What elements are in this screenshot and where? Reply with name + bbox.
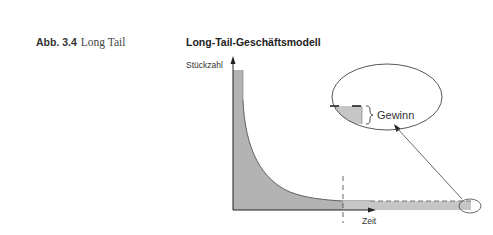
callout-label: Gewinn (377, 109, 414, 121)
head-area (233, 70, 343, 210)
brace-icon (366, 106, 373, 124)
tail-area (343, 201, 471, 210)
y-axis-arrow-icon (231, 56, 236, 64)
callout-arrow-line (397, 128, 462, 199)
x-axis-label: Zeit (362, 216, 377, 226)
long-tail-diagram: Stückzahl Zeit Gewinn (0, 0, 493, 235)
y-axis-label: Stückzahl (186, 60, 223, 70)
